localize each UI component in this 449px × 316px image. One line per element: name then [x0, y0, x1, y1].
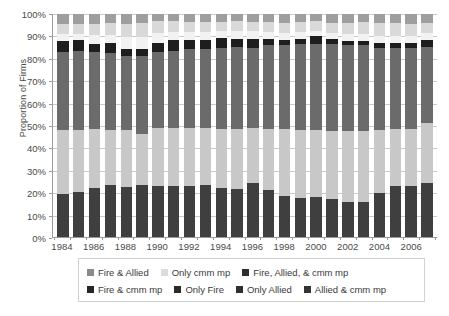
bar-segment [216, 48, 227, 128]
stacked-bar [200, 14, 211, 237]
bar-segment [216, 129, 227, 188]
bar-column [261, 14, 277, 237]
bar-segment [73, 14, 84, 24]
stacked-bar [326, 14, 337, 237]
bar-segment [105, 185, 116, 237]
bar-segment [73, 24, 84, 34]
bar-segment [73, 192, 84, 237]
y-tick-label: 100% [22, 9, 46, 20]
plot-area [52, 14, 437, 238]
x-tick-label: 1990 [147, 241, 168, 252]
bar-segment [200, 40, 211, 49]
bar-segment [184, 186, 195, 237]
stacked-bar [121, 14, 132, 237]
x-tick-mark [292, 237, 293, 240]
x-tick-label: 1988 [115, 241, 136, 252]
bar-segment [310, 130, 321, 197]
bar-segment [216, 188, 227, 238]
bar-segment [105, 23, 116, 35]
bar-segment [421, 40, 432, 48]
bar-column [134, 14, 150, 237]
bar-segment [310, 14, 321, 21]
legend-row-2: Fire & cmm mpOnly FireOnly AlliedAllied … [87, 281, 416, 298]
x-tick-label: 1992 [178, 241, 199, 252]
stacked-bar [263, 14, 274, 237]
bar-segment [57, 34, 68, 41]
x-tick-mark [308, 237, 309, 240]
stacked-bar [231, 14, 242, 237]
legend-swatch-icon [87, 286, 94, 293]
bar-segment [279, 33, 290, 40]
bar-column [292, 14, 308, 237]
bar-segment [390, 129, 401, 186]
bar-segment [121, 37, 132, 49]
bar-segment [310, 36, 321, 44]
x-tick-mark [229, 237, 230, 240]
x-tick-mark [133, 237, 134, 240]
bar-segment [295, 22, 306, 32]
bar-segment [200, 49, 211, 128]
bar-column [277, 14, 293, 237]
bar-column [71, 14, 87, 237]
bar-segment [326, 199, 337, 237]
bar-segment [247, 14, 258, 22]
bar-segment [421, 47, 432, 123]
bar-segment [405, 48, 416, 129]
x-tick-mark [387, 237, 388, 240]
bar-segment [136, 37, 147, 49]
y-tick-label: 10% [27, 210, 46, 221]
legend-item-label: Allied & cmm mp [315, 285, 386, 295]
legend-item[interactable]: Fire & cmm mp [87, 285, 162, 295]
bar-segment [326, 131, 337, 199]
x-tick-mark [356, 237, 357, 240]
legend-item[interactable]: Allied & cmm mp [304, 285, 386, 295]
legend-item[interactable]: Only Allied [236, 285, 292, 295]
legend-item[interactable]: Fire, Allied, & cmm mp [242, 268, 348, 278]
bar-segment [73, 51, 84, 130]
bar-column [387, 14, 403, 237]
stacked-bar [358, 14, 369, 237]
bar-segment [279, 14, 290, 22]
x-tick-mark [372, 237, 373, 240]
bar-segment [295, 14, 306, 22]
bar-segment [184, 40, 195, 49]
bar-segment [295, 130, 306, 199]
bar-segment [310, 44, 321, 130]
bar-segment [405, 36, 416, 43]
legend-swatch-icon [174, 286, 181, 293]
bar-segment [358, 45, 369, 131]
bar-column [308, 14, 324, 237]
bar-segment [310, 21, 321, 30]
bar-segment [216, 38, 227, 48]
bar-segment [279, 23, 290, 33]
x-tick-label: 1994 [210, 241, 231, 252]
bar-segment [200, 14, 211, 22]
legend-item[interactable]: Fire & Allied [87, 268, 149, 278]
stacked-bar [105, 14, 116, 237]
bar-column [340, 14, 356, 237]
bar-segment [390, 23, 401, 36]
bar-segment [168, 51, 179, 128]
bar-segment [326, 33, 337, 40]
stacked-bar [136, 14, 147, 237]
bar-segment [152, 52, 163, 128]
y-tick-label: 40% [27, 143, 46, 154]
x-tick-mark [165, 237, 166, 240]
bar-segment [358, 34, 369, 41]
bar-segment [136, 185, 147, 237]
bar-segment [136, 49, 147, 57]
bar-segment [184, 22, 195, 32]
bar-segment [105, 35, 116, 43]
stacked-bar [421, 14, 432, 237]
x-tick-mark [181, 237, 182, 240]
x-tick-mark [213, 237, 214, 240]
stacked-bar [390, 14, 401, 237]
legend-item[interactable]: Only Fire [174, 285, 224, 295]
y-tick-label: 0% [32, 233, 46, 244]
bar-segment [152, 186, 163, 237]
legend-row-1: Fire & AlliedOnly cmm mpFire, Allied, & … [87, 264, 416, 281]
bar-segment [152, 128, 163, 186]
x-tick-label: 2002 [337, 241, 358, 252]
legend-item[interactable]: Only cmm mp [161, 268, 231, 278]
bar-segment [421, 123, 432, 183]
